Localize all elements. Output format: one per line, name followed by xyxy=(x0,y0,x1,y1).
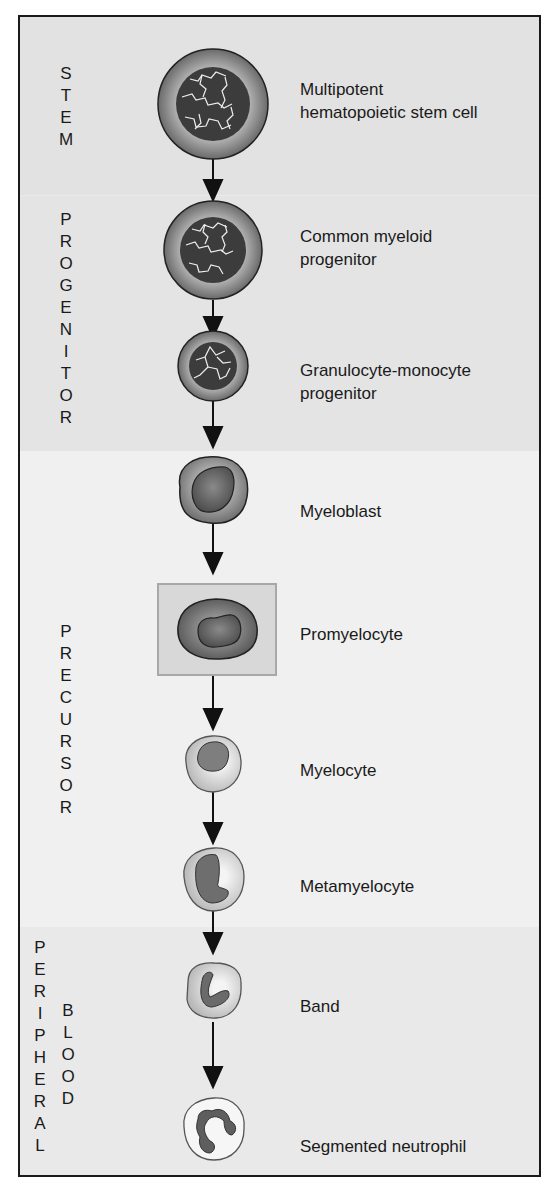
cell-label-myelocyte: Myelocyte xyxy=(300,759,520,782)
myelocyte-icon xyxy=(186,736,241,792)
cell-label-line: hematopoietic stem cell xyxy=(300,101,520,124)
cell-label-common-myeloid-progenitor: Common myeloid progenitor xyxy=(300,225,520,271)
cell-label-metamyelocyte: Metamyelocyte xyxy=(300,875,520,898)
segmented-neutrophil-icon xyxy=(184,1098,244,1160)
cell-label-line: Multipotent xyxy=(300,78,520,101)
promyelocyte-icon xyxy=(158,584,276,675)
common-myeloid-progenitor-icon xyxy=(164,201,262,299)
cell-label-line: progenitor xyxy=(300,382,520,405)
metamyelocyte-icon xyxy=(184,848,244,911)
cell-label-band: Band xyxy=(300,995,520,1018)
cell-label-segmented-neutrophil: Segmented neutrophil xyxy=(300,1135,520,1158)
cell-label-line: Common myeloid xyxy=(300,225,520,248)
cell-label-line: Granulocyte-monocyte xyxy=(300,359,520,382)
diagram-frame: STEM PROGENITOR PRECURSOR PERIPHERAL BLO… xyxy=(18,15,541,1177)
cell-label-line: progenitor xyxy=(300,248,520,271)
band-icon xyxy=(187,963,241,1018)
myeloblast-icon xyxy=(179,457,247,524)
cell-label-promyelocyte: Promyelocyte xyxy=(300,623,520,646)
stem-cell-icon xyxy=(158,49,268,159)
cell-label-multipotent-stem-cell: Multipotent hematopoietic stem cell xyxy=(300,78,520,124)
cell-label-granulocyte-monocyte-progenitor: Granulocyte-monocyte progenitor xyxy=(300,359,520,405)
cell-label-myeloblast: Myeloblast xyxy=(300,500,520,523)
granulocyte-monocyte-progenitor-icon xyxy=(178,331,248,401)
